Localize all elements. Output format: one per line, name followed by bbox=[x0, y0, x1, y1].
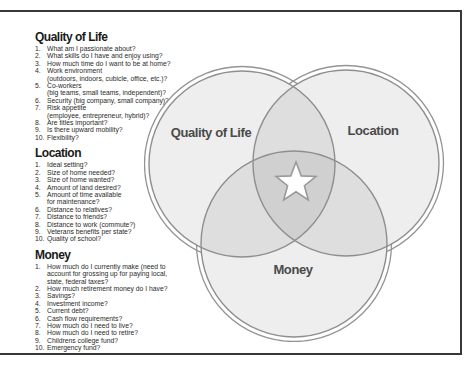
item-number: 10. bbox=[35, 344, 47, 351]
venn-label-quality-of-life: Quality of Life bbox=[171, 125, 252, 140]
item-number: 1. bbox=[35, 45, 47, 52]
item-number: 6. bbox=[35, 97, 47, 104]
item-text: What am I passionate about? bbox=[47, 45, 193, 52]
item-number: 7. bbox=[35, 104, 47, 119]
item-number: 8. bbox=[35, 221, 47, 228]
item-number: 4. bbox=[35, 67, 47, 82]
item-number: 8. bbox=[35, 329, 47, 336]
item-number: 6. bbox=[35, 206, 47, 213]
item-number: 4. bbox=[35, 300, 47, 307]
item-number: 10. bbox=[35, 235, 47, 242]
item-number: 9. bbox=[35, 126, 47, 133]
item-number: 5. bbox=[35, 191, 47, 206]
item-number: 2. bbox=[35, 169, 47, 176]
item-number: 7. bbox=[35, 213, 47, 220]
question-item: 10. Emergency fund? bbox=[35, 344, 193, 351]
item-number: 6. bbox=[35, 315, 47, 322]
item-text: Emergency fund? bbox=[47, 344, 193, 351]
content-frame: Quality of Life 1. What am I passionate … bbox=[0, 10, 462, 355]
question-item: 1. What am I passionate about? bbox=[35, 45, 193, 52]
item-number: 4. bbox=[35, 184, 47, 191]
item-number: 3. bbox=[35, 176, 47, 183]
section-title: Quality of Life bbox=[35, 30, 193, 44]
item-number: 8. bbox=[35, 119, 47, 126]
item-number: 5. bbox=[35, 82, 47, 97]
item-number: 1. bbox=[35, 161, 47, 168]
item-number: 5. bbox=[35, 307, 47, 314]
item-number: 10. bbox=[35, 134, 47, 141]
item-number: 3. bbox=[35, 60, 47, 67]
venn-diagram bbox=[144, 57, 454, 342]
venn-label-money: Money bbox=[273, 262, 312, 277]
item-number: 2. bbox=[35, 52, 47, 59]
item-number: 3. bbox=[35, 292, 47, 299]
item-number: 7. bbox=[35, 322, 47, 329]
item-number: 1. bbox=[35, 263, 47, 285]
item-number: 2. bbox=[35, 285, 47, 292]
venn-label-location: Location bbox=[348, 123, 399, 138]
item-number: 9. bbox=[35, 337, 47, 344]
item-number: 9. bbox=[35, 228, 47, 235]
